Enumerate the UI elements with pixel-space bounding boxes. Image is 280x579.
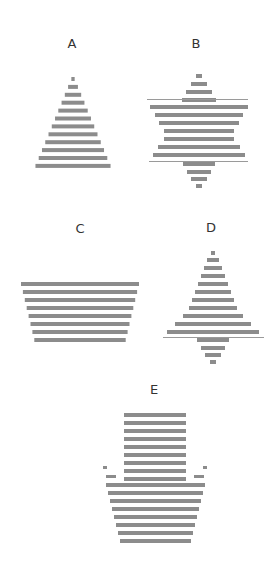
shape-b-star — [147, 74, 248, 188]
shape-c-trapezoid — [21, 282, 139, 342]
shape-d-kite — [163, 251, 264, 364]
shape-e-arrow — [103, 413, 207, 543]
shape-a-triangle — [35, 77, 110, 168]
striped-shapes-figure — [0, 0, 280, 579]
